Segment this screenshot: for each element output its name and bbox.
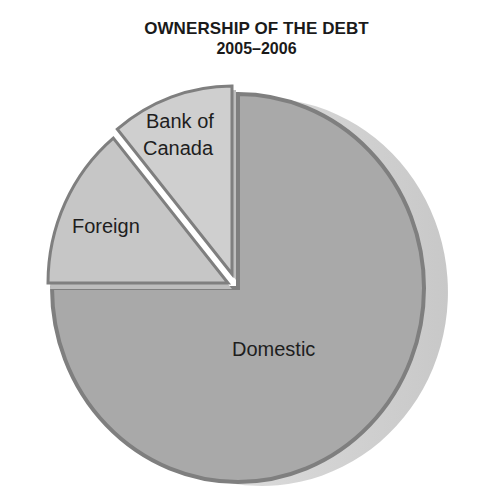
slice-label-foreign: Foreign [72,215,140,237]
slice-label-bank-line2: Canada [143,137,214,159]
pie-chart: Domestic Foreign Bank of Canada [0,0,483,502]
slice-label-domestic: Domestic [232,338,315,360]
slice-label-bank-line1: Bank of [146,110,214,132]
